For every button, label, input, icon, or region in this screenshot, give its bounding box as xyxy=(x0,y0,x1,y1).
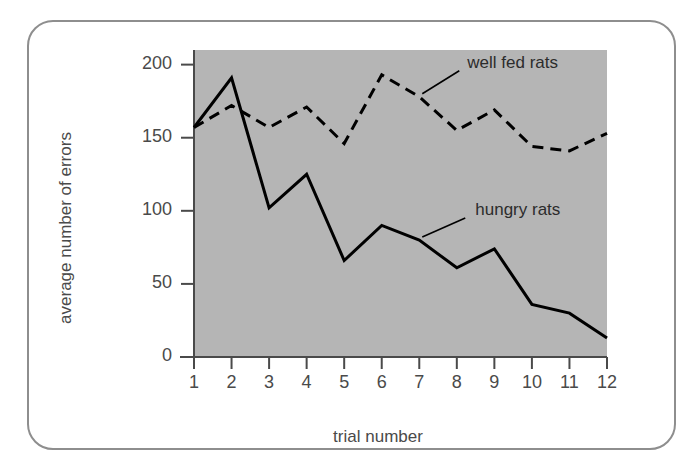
figure-frame: average number of errors trial number 05… xyxy=(27,20,676,450)
x-tick-label: 3 xyxy=(252,372,286,393)
x-axis-title: trial number xyxy=(278,427,478,447)
x-tick-label: 1 xyxy=(177,372,211,393)
x-tick-label: 12 xyxy=(590,372,624,393)
x-tick-label: 2 xyxy=(215,372,249,393)
x-tick-label: 10 xyxy=(515,372,549,393)
y-tick-label: 0 xyxy=(126,345,172,366)
x-tick-label: 4 xyxy=(290,372,324,393)
figure-root: average number of errors trial number 05… xyxy=(0,0,694,473)
x-tick-label: 11 xyxy=(552,372,586,393)
x-tick-label: 6 xyxy=(365,372,399,393)
series-label-well-fed-rats: well fed rats xyxy=(467,53,558,73)
y-axis-title: average number of errors xyxy=(56,128,76,328)
series-label-hungry-rats: hungry rats xyxy=(475,200,560,220)
x-tick-label: 8 xyxy=(440,372,474,393)
x-tick-label: 9 xyxy=(477,372,511,393)
x-tick-label: 5 xyxy=(327,372,361,393)
y-tick-label: 50 xyxy=(126,272,172,293)
y-tick-label: 150 xyxy=(126,126,172,147)
y-tick-label: 100 xyxy=(126,199,172,220)
y-tick-label: 200 xyxy=(126,53,172,74)
x-tick-label: 7 xyxy=(402,372,436,393)
